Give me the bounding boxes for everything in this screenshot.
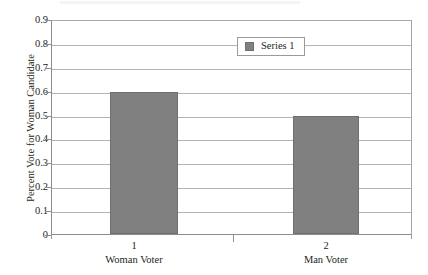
y-tick-label: 0 bbox=[4, 230, 48, 241]
y-tick-label: 0.7 bbox=[4, 63, 48, 74]
x-axis-group-woman-voter: 1 Woman Voter bbox=[82, 239, 186, 267]
gridline bbox=[52, 45, 411, 46]
y-tick-label: 0.2 bbox=[4, 182, 48, 193]
y-tick-label: 0.9 bbox=[4, 15, 48, 26]
x-category-label: 1 bbox=[82, 239, 186, 253]
bar-woman-voter[interactable] bbox=[110, 92, 178, 234]
plot-area bbox=[51, 20, 412, 235]
legend[interactable]: Series 1 bbox=[237, 37, 305, 56]
y-tick-label: 0.3 bbox=[4, 158, 48, 169]
legend-swatch-series-1 bbox=[245, 42, 254, 51]
x-axis-end-tick bbox=[411, 235, 412, 239]
x-axis-group-man-voter: 2 Man Voter bbox=[274, 239, 378, 267]
y-tick-label: 0.6 bbox=[4, 86, 48, 97]
x-group-label: Man Voter bbox=[274, 253, 378, 267]
y-tick-label: 0.1 bbox=[4, 206, 48, 217]
y-tick-label: 0.8 bbox=[4, 39, 48, 50]
x-axis-start-tick bbox=[51, 235, 52, 239]
x-category-label: 2 bbox=[274, 239, 378, 253]
y-tick-label: 0.5 bbox=[4, 110, 48, 121]
y-tick-label: 0.4 bbox=[4, 134, 48, 145]
legend-label-series-1: Series 1 bbox=[261, 41, 295, 52]
x-axis-group-divider-tick bbox=[233, 235, 234, 242]
bar-man-voter[interactable] bbox=[293, 116, 359, 234]
scan-artifact bbox=[60, 1, 300, 4]
y-axis-ticks: 0.9 0.8 0.7 0.6 0.5 0.4 0.3 0.2 0.1 0 bbox=[0, 20, 48, 235]
gridline bbox=[52, 69, 411, 70]
bar-chart: Percent Vote for Woman Candidate 0.9 0.8… bbox=[0, 0, 428, 275]
gridline bbox=[52, 93, 411, 94]
x-group-label: Woman Voter bbox=[82, 253, 186, 267]
